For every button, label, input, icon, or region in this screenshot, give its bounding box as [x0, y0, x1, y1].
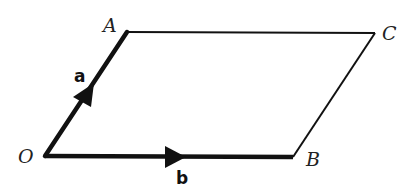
arrow-b-icon — [165, 146, 186, 168]
edge-CB — [293, 33, 375, 157]
vector-label-a: a — [74, 66, 85, 86]
edge-AC — [127, 32, 375, 33]
vector-label-b: b — [176, 168, 188, 188]
point-label-O: O — [18, 145, 34, 167]
point-label-B: B — [305, 148, 320, 170]
parallelogram-diagram: O A C B a b — [0, 0, 415, 188]
arrow-a-icon — [73, 83, 94, 107]
point-label-C: C — [382, 22, 397, 44]
point-label-A: A — [101, 14, 117, 36]
